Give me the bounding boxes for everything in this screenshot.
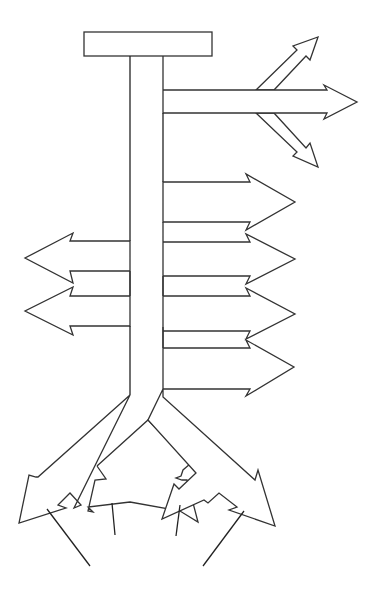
bottom-line-2 bbox=[112, 503, 115, 535]
bottom-line-4 bbox=[203, 511, 244, 566]
right-arrow-1 bbox=[163, 174, 295, 230]
up-right-arrow bbox=[256, 37, 318, 90]
left-arrow-2 bbox=[25, 271, 130, 335]
right-arrow-4 bbox=[163, 327, 294, 396]
header-box bbox=[84, 32, 212, 56]
down-right-arrow bbox=[256, 113, 318, 167]
diagram-canvas bbox=[0, 0, 382, 603]
right-arrow-2 bbox=[163, 222, 295, 296]
right-arrow-3 bbox=[163, 276, 295, 348]
left-arrow-1 bbox=[25, 233, 130, 296]
arrow-tree-diagram bbox=[0, 0, 382, 603]
bottom-line-1 bbox=[47, 509, 90, 566]
